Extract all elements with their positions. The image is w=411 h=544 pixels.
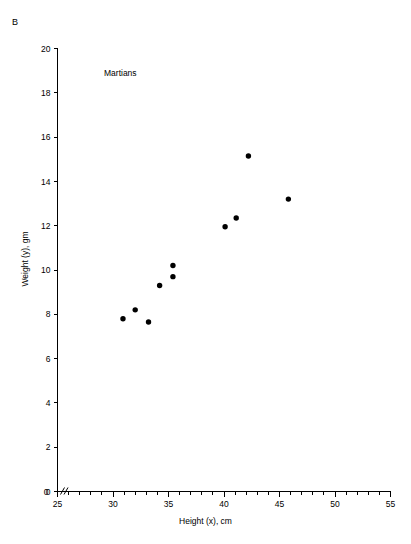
y-axis-title: Weight (y), gm [20, 231, 30, 286]
y-tick-label: 2 [46, 442, 51, 452]
y-axis-title-wrap: Weight (y), gm [14, 159, 32, 359]
axes-group [58, 49, 391, 492]
data-point [246, 153, 251, 158]
x-tick-label: 25 [53, 499, 63, 509]
y-tick-label: 18 [41, 88, 51, 98]
y-tick-label: 16 [41, 132, 51, 142]
x-tick-label: 50 [330, 499, 340, 509]
y-tick-label: 6 [46, 354, 51, 364]
x-tick-label: 45 [275, 499, 285, 509]
x-axis-title: Height (x), cm [0, 516, 411, 526]
origin-label: 0 [44, 487, 49, 497]
scatter-plot: 02468101214161820253035404550550 [0, 0, 411, 544]
ticks-group [54, 49, 391, 497]
x-tick-label: 35 [164, 499, 174, 509]
data-point [157, 283, 162, 288]
y-tick-label: 12 [41, 221, 51, 231]
data-point [120, 316, 125, 321]
x-tick-label: 30 [108, 499, 118, 509]
y-tick-label: 10 [41, 265, 51, 275]
figure-container: B Martians 02468101214161820253035404550… [0, 0, 411, 544]
data-point [234, 215, 239, 220]
y-tick-label: 4 [46, 398, 51, 408]
data-point [146, 319, 151, 324]
data-point [170, 263, 175, 268]
data-points-group [120, 153, 291, 325]
data-point [170, 274, 175, 279]
x-tick-label: 55 [386, 499, 396, 509]
y-tick-label: 20 [41, 44, 51, 54]
tick-labels-group: 02468101214161820253035404550550 [41, 44, 395, 509]
y-tick-label: 8 [46, 309, 51, 319]
data-point [133, 307, 138, 312]
data-point [222, 224, 227, 229]
x-tick-label: 40 [219, 499, 229, 509]
y-tick-label: 14 [41, 177, 51, 187]
data-point [286, 196, 291, 201]
